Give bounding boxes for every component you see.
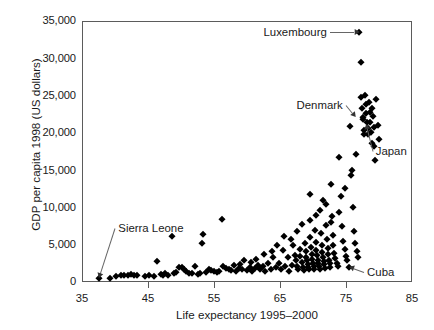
- annotation-arrowhead: [354, 29, 359, 35]
- annotations-layer: LuxembourgDenmarkJapanSierra LeoneCuba: [0, 0, 434, 330]
- annotation-arrowhead: [348, 264, 355, 271]
- annotation-label-luxembourg: Luxembourg: [264, 26, 327, 38]
- annotation-arrowhead: [96, 273, 103, 280]
- annotation-arrowhead: [363, 123, 370, 129]
- annotation-leader-line: [367, 129, 374, 151]
- annotation-label-sierra-leone: Sierra Leone: [118, 222, 183, 234]
- annotation-leader-line: [354, 268, 364, 272]
- x-axis-label: Life expectancy 1995–2000: [82, 308, 412, 321]
- scatter-plot-figure: 05,00010,00015,00020,00025,00030,00035,0…: [0, 0, 434, 330]
- annotation-leader-line: [330, 32, 355, 33]
- annotation-label-denmark: Denmark: [297, 99, 343, 111]
- annotation-label-cuba: Cuba: [367, 266, 394, 278]
- annotation-label-japan: Japan: [376, 145, 407, 157]
- annotation-leader-line: [100, 229, 116, 275]
- y-axis-label: GDP per capita 1998 (US dollars): [29, 25, 42, 265]
- annotation-leader-line: [345, 105, 352, 114]
